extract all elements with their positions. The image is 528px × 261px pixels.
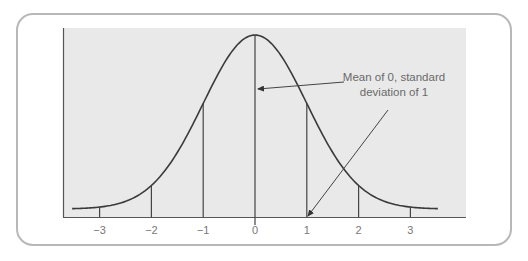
x-tick-label: −3: [93, 224, 106, 236]
x-tick-label: 1: [304, 224, 310, 236]
x-tick-label: −1: [197, 224, 210, 236]
chart-svg: Mean of 0, standard deviation of 1 −3−2−…: [0, 0, 528, 261]
plot-area: [63, 28, 466, 217]
annotation-line-1: Mean of 0, standard: [343, 71, 445, 83]
x-tick-label: 0: [252, 224, 258, 236]
x-tick-label: −2: [145, 224, 158, 236]
x-tick-label: 2: [356, 224, 362, 236]
normal-distribution-figure: Mean of 0, standard deviation of 1 −3−2−…: [0, 0, 528, 261]
x-tick-label: 3: [407, 224, 413, 236]
annotation-line-2: deviation of 1: [360, 86, 428, 98]
